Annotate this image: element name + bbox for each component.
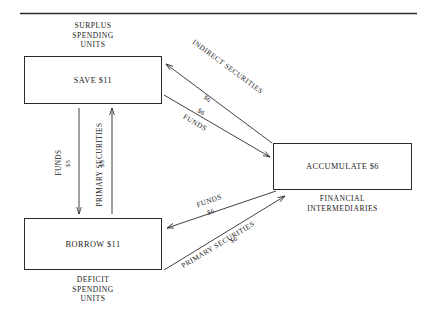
funds-direct-label: FUNDS <box>54 149 63 175</box>
financial-intermediaries-caption: FINANCIAL INTERMEDIARIES <box>273 194 412 213</box>
borrow-box: BORROW $11 <box>24 218 162 270</box>
accumulate-box-label: ACCUMULATE $6 <box>306 162 379 171</box>
edge-funds-to-intermediaries <box>164 95 270 157</box>
deficit-spending-units-caption: DEFICIT SPENDING UNITS <box>24 275 162 304</box>
primary-securities-direct-amount: $5 <box>98 160 105 167</box>
edge-primary-securities-to-intermediaries <box>164 196 285 270</box>
surplus-spending-units-caption: SURPLUS SPENDING UNITS <box>24 21 162 50</box>
save-box-label: SAVE $11 <box>74 76 112 85</box>
accumulate-box: ACCUMULATE $6 <box>273 143 412 190</box>
flow-diagram: SURPLUS SPENDING UNITS SAVE $11 BORROW $… <box>0 0 434 322</box>
save-box: SAVE $11 <box>24 56 162 104</box>
borrow-box-label: BORROW $11 <box>66 240 121 249</box>
funds-direct-amount: $5 <box>64 160 71 167</box>
edge-indirect-securities <box>166 64 272 143</box>
